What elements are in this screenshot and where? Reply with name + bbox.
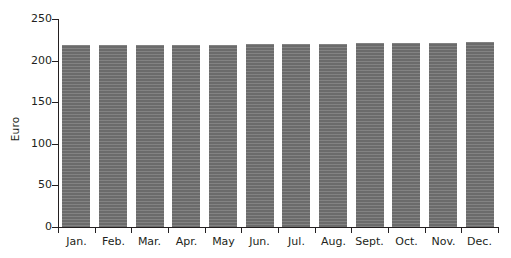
bar [136,45,164,227]
bar [392,43,420,227]
x-axis-tick [131,228,132,233]
y-axis-tick-label: 250 [6,13,52,24]
bar [99,45,127,227]
x-axis-tick [425,228,426,233]
bar [172,45,200,227]
bar [319,44,347,227]
x-axis-tick-label: Nov. [425,236,462,248]
bar [246,44,274,227]
y-axis-tick-label: 0 [6,221,52,232]
x-axis-tick-label: Aug. [315,236,352,248]
y-axis-tick-label: 150 [6,96,52,107]
plot-area [58,19,498,227]
x-axis-tick [498,228,499,233]
x-axis-tick-label: Feb. [95,236,132,248]
x-axis-tick [388,228,389,233]
y-axis-tick-label: 200 [6,55,52,66]
x-axis-tick-label: Jun. [241,236,278,248]
y-axis-tick-labels: 050100150200250 [0,0,52,258]
bar [282,44,310,227]
x-axis-tick-label: Sept. [351,236,388,248]
x-axis-tick [315,228,316,233]
bar [466,42,494,227]
x-axis-tick-label: Mar. [131,236,168,248]
x-axis-tick [461,228,462,233]
x-axis-tick-label: Oct. [388,236,425,248]
x-axis-tick-label: Apr. [168,236,205,248]
bar [62,45,90,227]
x-axis-tick-label: Jul. [278,236,315,248]
x-axis-tick-label: Dec. [461,236,498,248]
y-axis-tick-label: 100 [6,138,52,149]
x-axis-tick [58,228,59,233]
bar [356,43,384,227]
x-axis-tick [241,228,242,233]
x-axis-tick-label: May [205,236,242,248]
x-axis-tick [278,228,279,233]
y-axis-tick-label: 50 [6,179,52,190]
x-axis-tick [168,228,169,233]
x-axis-tick [205,228,206,233]
x-axis-tick [351,228,352,233]
x-axis-tick [95,228,96,233]
bar [429,43,457,227]
bar [209,45,237,227]
x-axis-tick-label: Jan. [58,236,95,248]
bar-chart: Euro 050100150200250 Jan.Feb.Mar.Apr.May… [0,0,511,258]
